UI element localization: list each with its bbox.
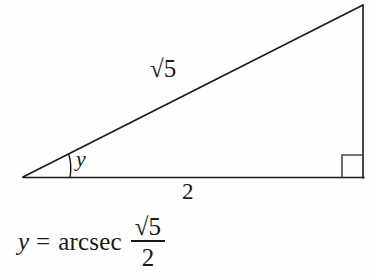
angle-label: y [76, 148, 86, 170]
angle-label-text: y [76, 146, 86, 171]
figure-canvas: √5 2 y y = arcsec √5 2 [0, 0, 375, 277]
equation-fraction: √5 2 [131, 214, 165, 270]
equation-equals-sign: = [36, 228, 50, 256]
equation: y = arcsec √5 2 [18, 214, 165, 270]
right-angle-marker-icon [342, 155, 363, 177]
equation-variable: y [18, 228, 29, 256]
angle-arc-icon [69, 154, 71, 178]
base-label: 2 [182, 180, 194, 203]
hypotenuse-label-text: √5 [150, 56, 176, 81]
equation-numerator: √5 [131, 214, 165, 240]
hypotenuse-label: √5 [150, 56, 176, 81]
hypotenuse-line [23, 5, 363, 177]
equation-denominator: 2 [138, 242, 159, 270]
base-label-text: 2 [182, 179, 194, 204]
equation-function-name: arcsec [58, 228, 122, 256]
